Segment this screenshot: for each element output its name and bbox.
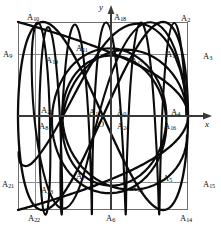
point-label-a11: A11 (76, 44, 88, 53)
point-label-subscript: 14 (186, 216, 192, 223)
point-label-subscript: 0 (123, 110, 126, 117)
point-label-a22: A22 (28, 214, 40, 223)
point-label-a9: A9 (3, 50, 12, 59)
point-label-subscript: 2 (187, 16, 190, 23)
point-label-subscript: 4 (177, 110, 180, 117)
point-label-subscript: 12 (95, 110, 101, 117)
point-label-subscript: 20 (47, 108, 53, 115)
point-label-a24: A24 (117, 122, 129, 131)
point-label-a14: A14 (180, 214, 192, 223)
y-axis-label: y (99, 3, 103, 12)
point-label-subscript: 24 (123, 124, 129, 131)
x-axis-label: x (205, 120, 209, 129)
point-label-subscript: 5 (169, 176, 172, 183)
point-label-subscript: 9 (9, 52, 12, 59)
point-label-subscript: 19 (52, 58, 58, 65)
point-label-a1: A1 (166, 50, 175, 59)
point-label-subscript: 16 (170, 124, 176, 131)
point-label-subscript: 23 (47, 188, 53, 195)
lissajous-figure: x y O A0A1A2A3A4A5A6A7A8A9A10A11A12A13A1… (0, 0, 221, 228)
point-label-a17: A17 (131, 57, 143, 66)
point-label-a18: A18 (114, 13, 126, 22)
point-label-a19: A19 (46, 56, 58, 65)
point-label-subscript: 21 (8, 182, 14, 189)
point-label-a7: A7 (76, 172, 85, 181)
point-label-a23: A23 (41, 186, 53, 195)
point-label-a4: A4 (171, 108, 180, 117)
point-label-a5: A5 (163, 174, 172, 183)
point-label-subscript: 22 (34, 216, 40, 223)
origin-label: O (98, 120, 104, 129)
point-label-subscript: 7 (82, 174, 85, 181)
point-label-a12: A12 (89, 108, 101, 117)
point-label-a13: A13 (131, 184, 143, 193)
point-label-subscript: 10 (33, 15, 39, 22)
point-label-a16: A16 (164, 122, 176, 131)
point-label-subscript: 13 (137, 186, 143, 193)
point-label-subscript: 1 (172, 52, 175, 59)
point-label-a6: A6 (106, 214, 115, 223)
point-label-a3: A3 (203, 52, 212, 61)
point-label-a15: A15 (203, 180, 215, 189)
point-label-a10: A10 (27, 13, 39, 22)
point-label-a21: A21 (2, 180, 14, 189)
point-label-subscript: 11 (82, 46, 88, 53)
point-label-a8: A8 (39, 122, 48, 131)
figure-canvas (0, 0, 221, 228)
point-label-subscript: 6 (112, 216, 115, 223)
point-label-a20: A20 (41, 106, 53, 115)
point-label-subscript: 3 (209, 54, 212, 61)
point-label-subscript: 17 (137, 59, 143, 66)
point-label-subscript: 15 (209, 182, 215, 189)
point-label-a0: A0 (117, 108, 126, 117)
point-label-subscript: 8 (45, 124, 48, 131)
point-label-subscript: 18 (120, 15, 126, 22)
point-label-a2: A2 (181, 14, 190, 23)
